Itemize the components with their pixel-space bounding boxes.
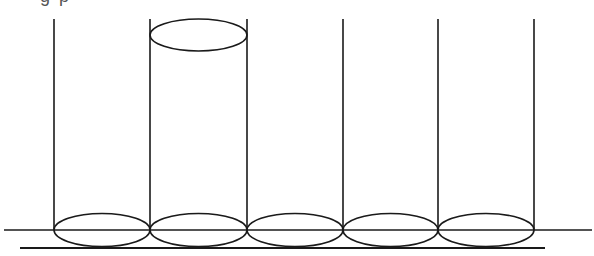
cylinder-diagram	[0, 0, 594, 256]
cylinder-top-cap	[150, 19, 247, 51]
